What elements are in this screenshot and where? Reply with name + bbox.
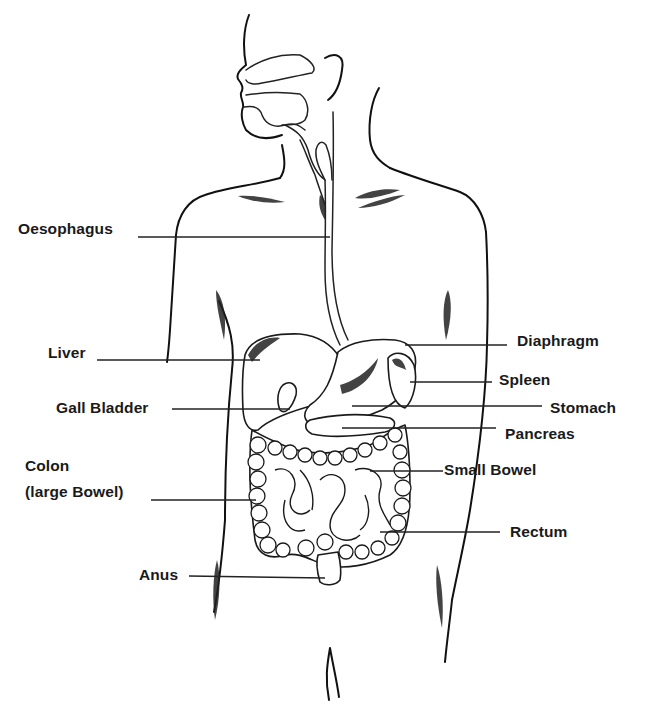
neck-back [369,88,390,168]
oral-cavity [246,93,308,125]
right-shoulder [390,168,486,232]
rectum [317,552,341,585]
label-colon: Colon [25,457,69,475]
left-torso [167,235,176,362]
label-small-bowel: Small Bowel [444,461,536,479]
groin [327,648,339,700]
nasal-cavity [246,55,314,84]
pancreas [306,415,395,437]
right-waist-shade [444,290,451,340]
left-shoulder [176,178,280,235]
leader-anus [189,576,325,578]
label-oesophagus: Oesophagus [18,220,113,238]
right-hip-shade [436,565,443,628]
label-anus: Anus [139,566,178,584]
label-liver: Liver [48,344,86,362]
label-gall-bladder: Gall Bladder [56,399,149,417]
head-outline [237,15,282,138]
back-of-head [325,55,343,100]
left-clavicle [238,196,285,203]
oesophagus-2 [332,112,348,340]
label-spleen: Spleen [499,371,550,389]
left-hip-shade [213,560,219,620]
pharynx [285,125,332,180]
anatomy-illustration [0,0,647,721]
tongue [244,106,305,130]
label-large-bowel: (large Bowel) [25,483,124,501]
label-rectum: Rectum [510,523,567,541]
right-torso [445,232,488,662]
label-pancreas: Pancreas [505,425,575,443]
digestive-system-diagram: Oesophagus Liver Gall Bladder Colon (lar… [0,0,647,721]
label-diaphragm: Diaphragm [517,332,599,350]
left-waist-shade [216,290,225,340]
neck-front [280,145,284,178]
label-stomach: Stomach [550,399,616,417]
